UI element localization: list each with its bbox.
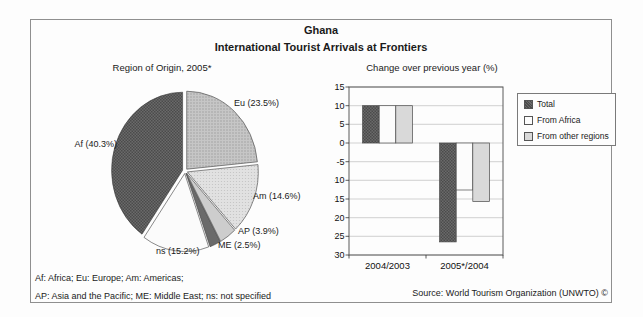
pie-chart-title: Region of Origin, 2005* [41,62,283,73]
y-tick-label: -20 [334,213,345,223]
legend-swatch-from-other-regions [524,132,533,141]
legend-item-from-other-regions: From other regions [524,131,609,141]
y-tick-label: -10 [334,175,345,185]
y-tick-label: 15 [334,82,344,92]
bar-chart-title: Change over previous year (%) [334,62,530,73]
footnote-region-abbreviations-2: AP: Asia and the Pacific; ME: Middle Eas… [35,291,271,301]
bar-from-other-regions-2005*-2004 [473,143,490,202]
y-tick-label: 0 [339,138,344,148]
pie-slice-label-ns: ns (15.2%) [156,246,200,256]
y-tick-label: -30 [334,250,345,260]
bar-total-2005*-2004 [440,143,457,242]
y-tick-label: 10 [334,101,344,111]
bar-from-africa-2004-2003 [379,106,396,143]
x-axis-label: 2005*/2004 [440,260,489,271]
pie-slice-label-Eu: Eu (23.5%) [234,98,279,108]
figure-border-box: Ghana International Tourist Arrivals at … [30,19,612,303]
pie-slice-label-Af: Af (40.3%) [74,139,117,149]
y-tick-label: -5 [336,157,344,167]
y-tick-label: 5 [339,119,344,129]
bar-chart: 2004/20032005*/2004151050-5-10-15-20-25-… [334,79,514,279]
pie-chart: Eu (23.5%)Am (14.6%)AP (3.9%)ME (2.5%)ns… [61,81,319,271]
scanned-figure-canvas: Ghana International Tourist Arrivals at … [0,0,643,317]
legend-label-total: Total [537,99,555,109]
legend-swatch-from-africa [524,116,533,125]
legend-swatch-total [524,100,533,109]
y-tick-label: -15 [334,194,345,204]
legend-item-total: Total [524,99,609,109]
footnote-region-abbreviations-1: Af: Africa; Eu: Europe; Am: Americas; [35,273,184,283]
figure-subtitle: International Tourist Arrivals at Fronti… [31,41,611,53]
pie-slice-label-Am: Am (14.6%) [253,191,301,201]
legend-label-from-africa: From Africa [537,115,580,125]
source-attribution: Source: World Tourism Organization (UNWT… [412,288,608,298]
figure-title: Ghana [31,24,611,36]
legend-item-from-africa: From Africa [524,115,609,125]
x-axis-label: 2004/2003 [365,260,410,271]
bar-from-other-regions-2004-2003 [396,106,413,143]
y-tick-label: -25 [334,231,345,241]
bar-total-2004-2003 [363,106,380,143]
bar-chart-legend: Total From Africa From other regions [517,93,616,146]
pie-slice-label-AP: AP (3.9%) [238,226,279,236]
pie-slice-label-ME: ME (2.5%) [218,240,261,250]
legend-label-from-other-regions: From other regions [537,131,609,141]
bar-from-africa-2005*-2004 [456,143,473,190]
